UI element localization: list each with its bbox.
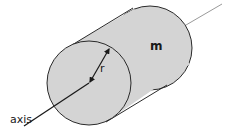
radius-label: r (100, 62, 105, 75)
axis-label: axis (10, 113, 32, 126)
mass-label: m (150, 39, 163, 53)
cylinder-body (47, 6, 192, 125)
axis-line-back (186, 4, 222, 25)
cylinder-diagram: r m axis (0, 0, 230, 136)
